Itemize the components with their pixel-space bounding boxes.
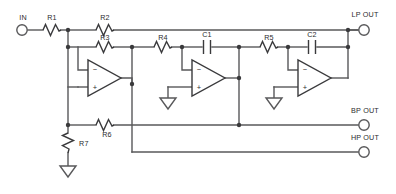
terminal-label-in: IN [19,13,27,22]
ground-icon [60,166,76,177]
resistor-R6: R6 [96,120,114,140]
resistor-label-R3: R3 [100,33,110,42]
junction-dot [237,45,241,49]
opamp-U3: − + [298,60,331,96]
resistor-R1: R1 [43,13,61,36]
capacitor-label-C1: C1 [202,30,212,39]
opamp-noninverting-sign: + [197,83,202,92]
junction-dot [66,45,70,49]
resistor-label-R7: R7 [79,139,89,148]
ground-symbol-3 [266,98,282,109]
junction-dot [130,45,134,49]
resistor-zigzag [96,42,114,53]
opamp-inverting-sign: − [303,65,308,74]
terminal-label-bp-out: BP OUT [351,106,379,115]
capacitor-C1: C1 [202,30,212,54]
resistor-R7: R7 [63,133,89,153]
resistor-label-R4: R4 [158,33,168,42]
terminal-bp-out[interactable]: BP OUT [351,106,379,130]
ground-symbol-2 [160,98,176,109]
junction-dot [66,28,70,32]
wire-u2-inverting-input [182,47,192,70]
junction-dot [237,123,241,127]
terminal-hp-out[interactable]: HP OUT [351,133,380,157]
terminal-label-hp-out: HP OUT [351,133,380,142]
junction-dot [237,76,241,80]
opamp-noninverting-sign: + [93,83,98,92]
capacitor-label-C2: C2 [307,30,317,39]
opamp-U1: − + [88,60,121,96]
opamp-U2: − + [192,60,225,96]
resistor-label-R6: R6 [102,130,112,139]
opamp-inverting-sign: − [93,65,98,74]
junction-dot [346,28,350,32]
junction-dot [180,45,184,49]
schematic-diagram: R1 R2 R3 R4 R5 R6 R7 [0,0,396,194]
terminal-circle-icon[interactable] [17,25,27,35]
terminal-circle-icon[interactable] [359,25,369,35]
schematic-canvas: R1 R2 R3 R4 R5 R6 R7 [0,0,396,194]
resistor-zigzag [260,42,278,53]
capacitor-C2: C2 [307,30,317,54]
resistor-label-R5: R5 [264,33,274,42]
resistor-zigzag [154,42,172,53]
wire-u3-inverting-input [288,47,298,70]
resistor-zigzag [63,133,74,153]
resistor-R3: R3 [96,33,114,53]
terminal-circle-icon[interactable] [359,120,369,130]
resistor-label-R2: R2 [100,13,110,22]
junction-dot [130,82,134,86]
terminal-label-lp-out: LP OUT [351,10,378,19]
opamp-inverting-sign: − [197,65,202,74]
wire-u1-inverting-input [78,47,88,70]
junction-dot [286,45,290,49]
resistor-zigzag [43,25,61,36]
ground-icon [266,98,282,109]
terminal-lp-out[interactable]: LP OUT [351,10,378,35]
junction-dot [66,123,70,127]
ground-symbol-1 [60,166,76,177]
resistor-R4: R4 [154,33,172,53]
terminal-circle-icon[interactable] [359,147,369,157]
resistor-zigzag [96,120,114,131]
resistor-label-R1: R1 [47,13,57,22]
junction-dot [346,45,350,49]
resistor-R5: R5 [260,33,278,53]
opamp-noninverting-sign: + [303,83,308,92]
terminal-in[interactable]: IN [17,13,27,35]
ground-icon [160,98,176,109]
